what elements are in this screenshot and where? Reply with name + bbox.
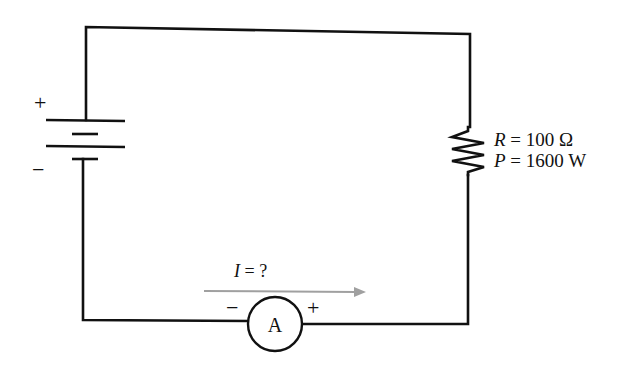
circuit-diagram: + − R = 100 Ω P = 1600 W I = ? A − + <box>0 0 640 369</box>
ammeter-minus-label: − <box>226 295 238 320</box>
current-label: I = ? <box>233 261 267 281</box>
ammeter-plus-label: + <box>307 295 319 320</box>
battery-long-plate <box>46 120 125 121</box>
right-bottom-wire <box>303 175 468 324</box>
top-wire <box>86 27 470 127</box>
battery-plus-label: + <box>34 90 46 115</box>
resistance-label: R = 100 Ω <box>493 129 573 150</box>
circuit-wires <box>83 27 470 324</box>
ammeter-label: A <box>268 314 283 336</box>
battery-long-plate <box>46 146 125 147</box>
resistor-icon <box>452 127 484 175</box>
left-bottom-wire <box>83 159 248 321</box>
power-label: P = 1600 W <box>493 150 586 171</box>
battery-icon <box>46 120 125 159</box>
battery-minus-label: − <box>32 157 44 182</box>
